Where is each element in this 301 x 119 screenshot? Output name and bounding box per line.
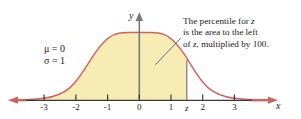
annotation-line-1-text: The percentile for <box>183 16 251 26</box>
y-axis-arrowhead <box>136 12 143 21</box>
sd-parameter: σ = 1 <box>44 55 65 67</box>
normal-curve-figure: μ = 0 σ = 1 The percentile for z is the … <box>0 0 301 119</box>
annotation-line-3: of z, multiplied by 100. <box>183 39 301 50</box>
x-tick-label-z: z <box>185 104 189 113</box>
x-axis-label: x <box>276 101 280 111</box>
x-tick-label--1: -1 <box>104 103 112 112</box>
annotation-line-3-suffix: , multiplied by 100. <box>197 39 269 49</box>
y-axis-label: y <box>129 11 133 21</box>
annotation-line-1: The percentile for z <box>183 16 301 27</box>
x-tick-label--3: -3 <box>40 103 48 112</box>
annotation-line-3-prefix: of <box>183 39 193 49</box>
x-tick-label--2: -2 <box>72 103 80 112</box>
mean-parameter: μ = 0 <box>44 43 65 55</box>
x-tick-label-3: 3 <box>232 103 237 112</box>
distribution-parameters: μ = 0 σ = 1 <box>44 43 65 67</box>
x-tick-label-2: 2 <box>200 103 205 112</box>
gaussian-fill <box>13 32 187 100</box>
x-tick-label-1: 1 <box>169 103 174 112</box>
x-tick-label-0: 0 <box>137 103 142 112</box>
annotation-line-2: is the area to the left <box>183 27 301 38</box>
annotation-line-1-z: z <box>251 16 255 26</box>
percentile-annotation: The percentile for z is the area to the … <box>183 16 301 50</box>
